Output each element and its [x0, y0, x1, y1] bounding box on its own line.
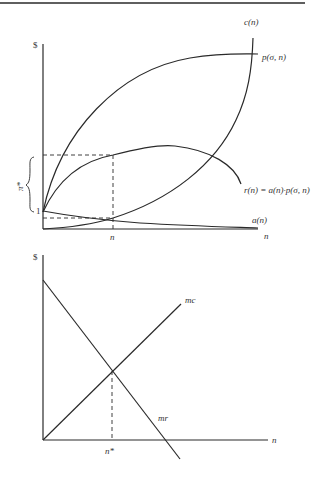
curve-r — [43, 145, 241, 212]
curve-c — [43, 38, 253, 229]
economics-diagram: $ 1 π* n n c(n) p(σ, n) r(n) = a(n)·p(σ,… — [0, 0, 311, 478]
top-y-tick-label: 1 — [36, 206, 41, 216]
bottom-chart: $ n n* mc mr — [33, 252, 277, 459]
label-a: a(n) — [252, 215, 267, 225]
label-c: c(n) — [244, 17, 259, 27]
top-chart: $ 1 π* n n c(n) p(σ, n) r(n) = a(n)·p(σ,… — [15, 17, 310, 242]
bottom-x-axis-label: n — [272, 435, 277, 445]
brace-icon — [26, 157, 34, 212]
label-mc: mc — [185, 295, 196, 305]
curve-mr — [43, 280, 180, 459]
brace-label: π* — [15, 181, 25, 191]
label-p: p(σ, n) — [261, 52, 286, 62]
bottom-x-tick-label: n* — [105, 446, 115, 456]
top-x-axis-label: n — [264, 231, 269, 241]
top-y-axis-label: $ — [33, 40, 38, 50]
bottom-y-axis-label: $ — [33, 252, 38, 262]
label-r: r(n) = a(n)·p(σ, n) — [244, 185, 310, 195]
label-mr: mr — [158, 413, 168, 423]
curve-p — [43, 54, 258, 212]
top-x-tick-label: n — [110, 232, 115, 242]
